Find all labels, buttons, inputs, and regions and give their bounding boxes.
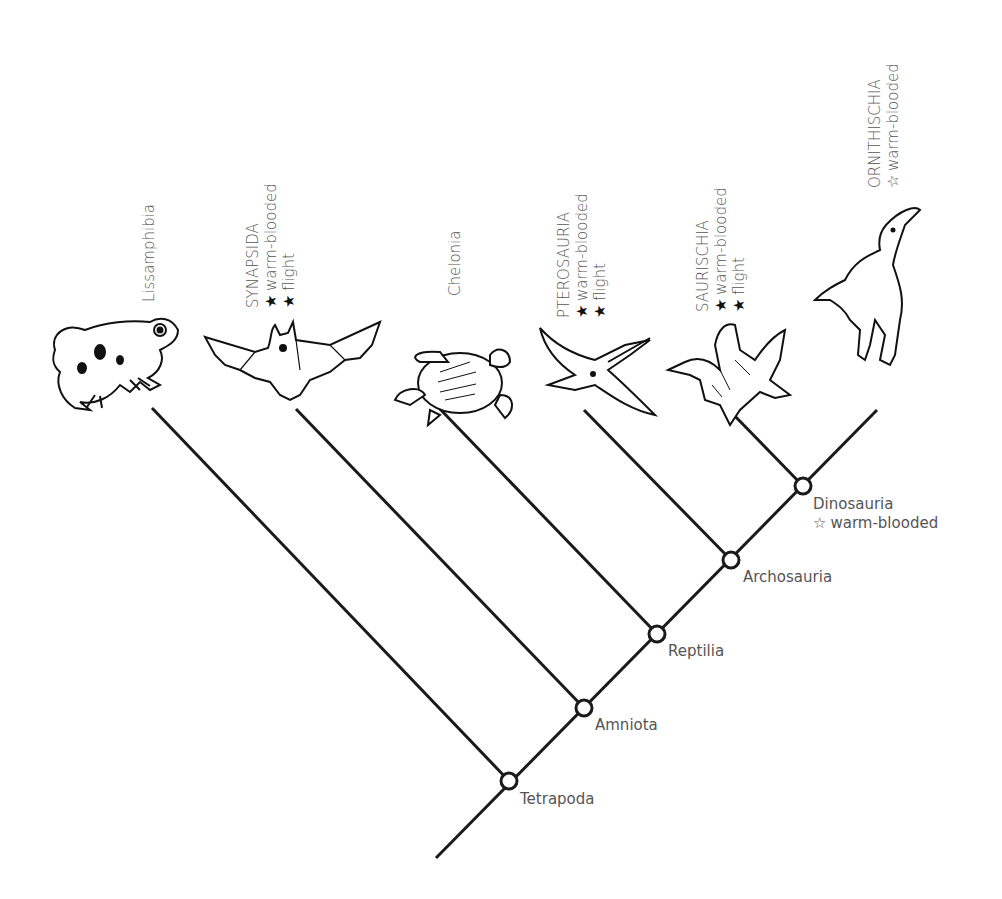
clade-name: ORNITHISCHIA bbox=[866, 63, 884, 188]
cladogram bbox=[0, 0, 1002, 899]
frog-illustration bbox=[53, 319, 178, 410]
branch-synapsida bbox=[296, 409, 584, 708]
label-tetrapoda: Tetrapoda bbox=[520, 790, 595, 809]
bat-illustration bbox=[205, 322, 380, 400]
filled-star-icon: ★ bbox=[280, 295, 298, 308]
sea-turtle-illustration bbox=[395, 350, 512, 425]
pterosaur-illustration bbox=[540, 328, 655, 415]
label-lissamphibia: Lissamphibia bbox=[140, 204, 158, 302]
parasaurolophus-illustration bbox=[815, 208, 920, 365]
label-dinosauria: Dinosauria ☆warm-blooded bbox=[813, 495, 938, 533]
label-synapsida: SYNAPSIDA ★warm-blooded ★flight bbox=[244, 183, 298, 308]
feathered-dinosaur-illustration bbox=[668, 324, 790, 425]
filled-star-icon: ★ bbox=[262, 295, 280, 308]
clade-name: SYNAPSIDA bbox=[244, 183, 262, 308]
label-archosauria: Archosauria bbox=[743, 568, 832, 587]
node-archosauria bbox=[723, 552, 739, 568]
trait-flight: ★flight bbox=[730, 187, 748, 312]
node-amniota bbox=[576, 700, 592, 716]
label-ornithischia: ORNITHISCHIA ☆warm-blooded bbox=[866, 63, 902, 188]
clade-name: Lissamphibia bbox=[140, 204, 158, 302]
filled-star-icon: ★ bbox=[712, 299, 730, 312]
trait-warm-blooded: ★warm-blooded bbox=[573, 193, 591, 318]
hollow-star-icon: ☆ bbox=[813, 514, 826, 532]
branch-saurischia bbox=[729, 410, 803, 486]
label-pterosauria: PTEROSAURIA ★warm-blooded ★flight bbox=[555, 193, 609, 318]
label-amniota: Amniota bbox=[595, 716, 658, 735]
hollow-star-icon: ☆ bbox=[884, 175, 902, 188]
clade-name: SAURISCHIA bbox=[694, 187, 712, 312]
node-tetrapoda bbox=[501, 773, 517, 789]
branch-pterosauria bbox=[584, 410, 731, 560]
filled-star-icon: ★ bbox=[730, 299, 748, 312]
label-chelonia: Chelonia bbox=[446, 231, 464, 296]
clade-name: Chelonia bbox=[446, 231, 464, 296]
trait-warm-blooded: ★warm-blooded bbox=[712, 187, 730, 312]
filled-star-icon: ★ bbox=[573, 305, 591, 318]
label-reptilia: Reptilia bbox=[668, 642, 724, 661]
clade-name: PTEROSAURIA bbox=[555, 193, 573, 318]
trait-warm-blooded: ★warm-blooded bbox=[262, 183, 280, 308]
branch-chelonia bbox=[440, 409, 657, 634]
trait-flight: ★flight bbox=[280, 183, 298, 308]
trait-warm-blooded: ☆warm-blooded bbox=[884, 63, 902, 188]
node-dinosauria bbox=[795, 478, 811, 494]
trait-flight: ★flight bbox=[591, 193, 609, 318]
clade-name: Dinosauria bbox=[813, 495, 938, 514]
label-saurischia: SAURISCHIA ★warm-blooded ★flight bbox=[694, 187, 748, 312]
trait-warm-blooded: ☆warm-blooded bbox=[813, 514, 938, 533]
branch-lissamphibia bbox=[152, 408, 509, 781]
node-reptilia bbox=[649, 626, 665, 642]
filled-star-icon: ★ bbox=[591, 305, 609, 318]
